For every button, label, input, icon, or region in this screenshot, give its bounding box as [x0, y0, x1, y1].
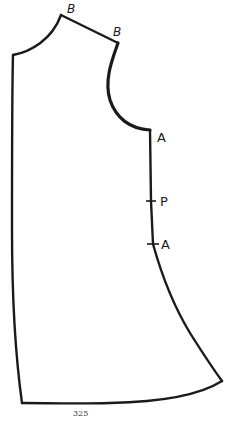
side-seam-flare: [153, 244, 222, 381]
hem-curve: [22, 381, 222, 403]
center-front-edge: [12, 55, 22, 403]
label-a-notch: A: [161, 237, 170, 252]
side-seam-upper: [150, 130, 153, 244]
neckline-curve: [13, 15, 61, 55]
pattern-diagram: B B A P A 325: [0, 0, 227, 421]
label-p-notch: P: [160, 194, 168, 209]
label-b-neck: B: [67, 2, 75, 16]
shoulder-seam: [61, 15, 118, 43]
armhole-curve: [108, 43, 150, 130]
label-b-armhole: B: [113, 25, 121, 39]
label-a-underarm: A: [157, 130, 166, 145]
page-number: 325: [73, 409, 88, 418]
